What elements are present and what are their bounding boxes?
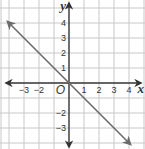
x-tick-label: 3 [111, 85, 116, 95]
x-tick-label: 2 [96, 85, 101, 95]
origin-label: O [56, 83, 65, 97]
grid-lines [0, 0, 145, 149]
y-tick-label: 3 [61, 33, 66, 43]
y-axis-label: y [58, 0, 66, 13]
y-tick-label: 2 [61, 48, 66, 58]
x-tick-label: 1 [81, 85, 86, 95]
x-tick-label: 4 [126, 85, 131, 95]
axes [6, 3, 141, 147]
x-axis-label: x [137, 81, 145, 96]
coordinate-plane: −3−21234 4321−2−3 O x y [0, 0, 145, 149]
x-tick-label: −2 [34, 85, 44, 95]
x-tick-label: −3 [19, 85, 29, 95]
y-tick-label: −3 [56, 123, 66, 133]
y-tick-label: −2 [56, 108, 66, 118]
y-tick-label: 1 [61, 63, 66, 73]
y-tick-label: 4 [61, 18, 66, 28]
